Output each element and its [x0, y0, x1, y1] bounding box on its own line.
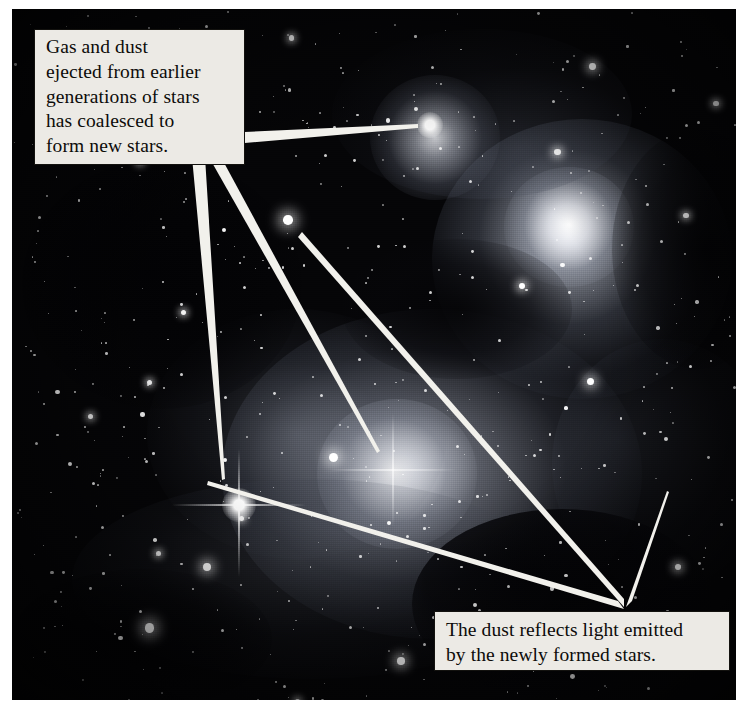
caption-line: Gas and dust	[46, 35, 235, 60]
leader-line-to-dust-lane-right	[626, 491, 669, 607]
caption-line: generations of stars	[46, 85, 235, 110]
leader-line-to-bright-star-upper-right	[222, 124, 418, 145]
leader-line-to-reflection-nebula-center	[298, 232, 624, 607]
leader-line-to-bright-star-lower-left	[192, 157, 225, 480]
caption-line: has coalesced to	[46, 109, 235, 134]
caption-line: form new stars.	[46, 134, 235, 159]
caption-gas-and-dust[interactable]: Gas and dust ejected from earlier genera…	[34, 29, 245, 165]
leader-line-to-dust-lane-left	[207, 481, 624, 609]
caption-line: by the newly formed stars.	[446, 643, 720, 668]
annotated-astronomy-figure: Gas and dust ejected from earlier genera…	[0, 0, 748, 712]
caption-line: The dust reflects light emitted	[446, 618, 720, 643]
leader-line-to-nebula-core	[210, 159, 380, 453]
caption-dust-reflects[interactable]: The dust reflects light emitted by the n…	[434, 611, 730, 671]
caption-line: ejected from earlier	[46, 60, 235, 85]
